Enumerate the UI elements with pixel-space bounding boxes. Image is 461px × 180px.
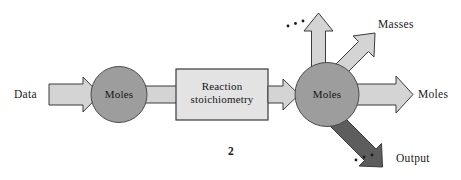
label-moles-output: Moles: [418, 88, 448, 100]
node-label-process-box: Reaction stoichiometry: [176, 80, 268, 106]
node-label-circle-two: Moles: [297, 88, 357, 100]
label-data: Data: [14, 88, 37, 100]
label-output: Output: [396, 152, 430, 164]
label-masses: Masses: [378, 18, 414, 30]
process-box-line-2: stoichiometry: [176, 93, 268, 106]
ellipsis-top-icon: [287, 20, 305, 28]
figure-number: 2: [228, 145, 234, 157]
diagram-canvas: Data Masses Moles Output 2 Moles Moles R…: [0, 0, 461, 180]
node-label-circle-one: Moles: [89, 88, 149, 100]
connector-box-to-circle-two: [268, 79, 299, 110]
process-box-line-1: Reaction: [176, 80, 268, 93]
